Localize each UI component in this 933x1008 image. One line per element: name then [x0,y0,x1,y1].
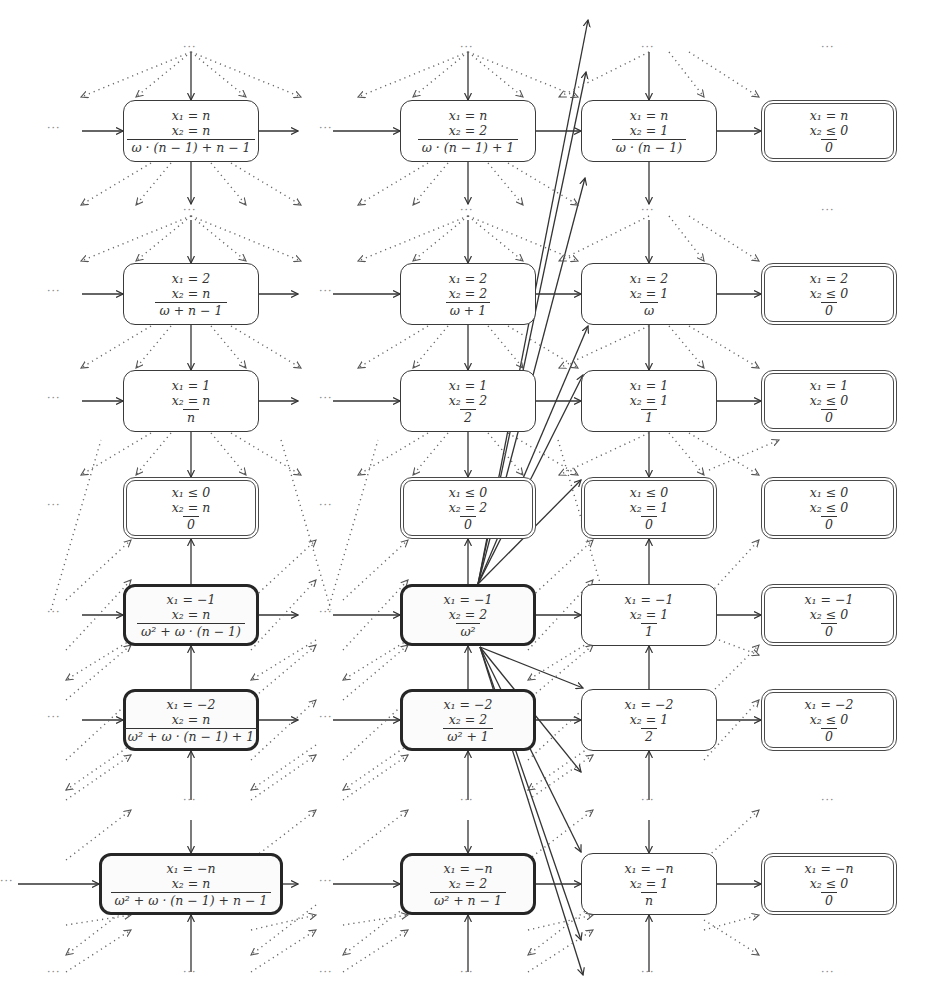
rank-value: n [641,892,657,908]
rank-value: ω [640,302,658,318]
ellipsis: ··· [319,606,333,619]
x1-condition: x₁ = n [810,108,849,123]
state-node: x₁ = −1x₂ = 2ω² [400,584,536,646]
ellipsis: ··· [641,41,655,54]
x2-condition: x₂ = 2 [449,500,487,515]
x1-condition: x₁ = 2 [810,271,848,286]
ellipsis: ··· [47,285,61,298]
x2-condition: x₂ ≤ 0 [810,393,848,408]
rank-value: ω · (n − 1) + n − 1 [127,139,254,155]
x2-condition: x₂ = 2 [449,286,487,301]
ellipsis: ··· [641,966,655,979]
x2-condition: x₂ = n [172,607,211,622]
x2-condition: x₂ = 1 [630,286,668,301]
state-node: x₁ = 1x₂ = 11 [581,370,717,432]
x2-condition: x₂ ≤ 0 [810,712,848,727]
ellipsis: ··· [183,41,197,54]
state-node: x₁ = −2x₂ = 2ω² + 1 [400,689,536,751]
state-node: x₁ = nx₂ = 2ω · (n − 1) + 1 [400,100,536,162]
state-node: x₁ = 1x₂ = nn [123,370,259,432]
ellipsis: ··· [821,204,835,217]
rank-value: ω² [456,623,479,639]
x1-condition: x₁ = −1 [444,592,493,607]
rank-value: 0 [821,728,837,744]
state-node: x₁ = −1x₂ ≤ 00 [761,584,897,646]
x2-condition: x₂ ≤ 0 [810,123,848,138]
rank-value: 2 [641,728,657,744]
ellipsis: ··· [460,204,474,217]
state-node: x₁ = −1x₂ = 11 [581,584,717,646]
ellipsis: ··· [460,794,474,807]
ellipsis: ··· [319,875,333,888]
rank-value: 1 [641,409,657,425]
x2-condition: x₂ ≤ 0 [810,876,848,891]
rank-value: 0 [821,892,837,908]
state-node: x₁ = 2x₂ = 2ω + 1 [400,263,536,325]
x1-condition: x₁ = n [172,108,211,123]
x1-condition: x₁ = −n [443,861,492,876]
x1-condition: x₁ = −2 [625,697,674,712]
x2-condition: x₂ = n [172,393,211,408]
x1-condition: x₁ = −1 [167,592,216,607]
state-node: x₁ = 2x₂ = nω + n − 1 [123,263,259,325]
x2-condition: x₂ ≤ 0 [810,286,848,301]
state-node: x₁ = −2x₂ = 12 [581,689,717,751]
x1-condition: x₁ = 1 [630,378,668,393]
ellipsis: ··· [47,499,61,512]
x2-condition: x₂ = 1 [630,393,668,408]
x2-condition: x₂ = 2 [449,393,487,408]
rank-value: n [183,409,199,425]
rank-value: ω + n − 1 [155,302,226,318]
rank-value: 2 [460,409,476,425]
state-node: x₁ = −1x₂ = nω² + ω · (n − 1) [123,584,259,646]
x1-condition: x₁ = 1 [172,378,210,393]
rank-value: 0 [821,139,837,155]
x1-condition: x₁ = −2 [805,697,854,712]
x1-condition: x₁ = −n [804,861,853,876]
x2-condition: x₂ = n [172,876,211,891]
x1-condition: x₁ = 2 [449,271,487,286]
ellipsis: ··· [319,122,333,135]
rank-value: ω² + n − 1 [430,892,506,908]
ellipsis: ··· [460,966,474,979]
x1-condition: x₁ = 2 [630,271,668,286]
x2-condition: x₂ = 1 [630,876,668,891]
rank-value: 0 [641,516,657,532]
x2-condition: x₂ = 2 [449,607,487,622]
ellipsis: ··· [641,204,655,217]
x2-condition: x₂ = 1 [630,607,668,622]
state-node: x₁ = nx₂ ≤ 00 [761,100,897,162]
x2-condition: x₂ = n [172,123,211,138]
x2-condition: x₂ ≤ 0 [810,607,848,622]
state-node: x₁ = nx₂ = 1ω · (n − 1) [581,100,717,162]
rank-value: 0 [821,623,837,639]
ellipsis: ··· [319,966,333,979]
ellipsis: ··· [319,392,333,405]
rank-value: 0 [821,302,837,318]
rank-value: ω + 1 [446,302,491,318]
rank-value: 0 [821,516,837,532]
ellipsis: ··· [821,966,835,979]
state-node: x₁ = 1x₂ ≤ 00 [761,370,897,432]
x1-condition: x₁ ≤ 0 [810,485,848,500]
x1-condition: x₁ = −n [166,861,215,876]
rank-value: ω² + ω · (n − 1) + n − 1 [111,892,272,908]
x1-condition: x₁ = −n [624,861,673,876]
x2-condition: x₂ = 2 [449,123,487,138]
ellipsis: ··· [319,499,333,512]
ellipsis: ··· [641,794,655,807]
state-node: x₁ = −nx₂ = 2ω² + n − 1 [400,853,536,915]
x1-condition: x₁ = 2 [172,271,210,286]
x2-condition: x₂ = 2 [449,876,487,891]
state-node: x₁ = 1x₂ = 22 [400,370,536,432]
x2-condition: x₂ = 1 [630,500,668,515]
ellipsis: ··· [319,711,333,724]
x2-condition: x₂ = 1 [630,123,668,138]
rank-value: 1 [641,623,657,639]
rank-value: 0 [460,516,476,532]
state-node: x₁ ≤ 0x₂ = n0 [123,477,259,539]
ellipsis: ··· [460,41,474,54]
ellipsis: ··· [821,41,835,54]
ellipsis: ··· [47,966,61,979]
state-node: x₁ ≤ 0x₂ ≤ 00 [761,477,897,539]
